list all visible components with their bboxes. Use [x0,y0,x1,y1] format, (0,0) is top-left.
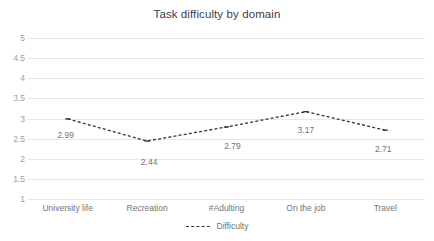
gridline [28,199,425,200]
data-point-label: 2.71 [375,145,392,154]
y-axis-tick-label: 1.5 [3,175,25,184]
gridline [28,38,425,39]
y-axis-tick-label: 3.5 [3,94,25,103]
y-axis-tick-label: 3 [3,114,25,123]
chart-title: Task difficulty by domain [0,8,434,20]
data-point-label: 2.79 [224,142,241,151]
data-point-label: 3.17 [298,125,315,134]
y-axis-tick-label: 2 [3,155,25,164]
y-axis-tick-label: 5 [3,34,25,43]
gridline [28,58,425,59]
x-axis-tick-label: On the job [286,201,325,215]
legend-item-difficulty: Difficulty [217,222,249,231]
gridline [28,179,425,180]
legend-line-icon [186,223,212,230]
plot-area [28,38,425,199]
x-axis-tick-label: Recreation [127,201,168,215]
x-axis: University lifeRecreation#AdultingOn the… [28,201,425,217]
y-axis: 54.543.532.521.51 [0,38,25,199]
gridline [28,119,425,120]
y-axis-tick-label: 4 [3,74,25,83]
data-point-label: 2.44 [141,158,158,167]
chart-legend: Difficulty [0,222,434,231]
gridline [28,159,425,160]
y-axis-tick-label: 1 [3,195,25,204]
data-point-label: 2.99 [57,131,74,140]
x-axis-tick-label: #Adulting [209,201,244,215]
x-axis-tick-label: University life [42,201,93,215]
gridline [28,139,425,140]
gridline [28,98,425,99]
x-axis-tick-label: Travel [374,201,397,215]
gridline [28,78,425,79]
line-chart: Task difficulty by domain 54.543.532.521… [0,0,434,241]
y-axis-tick-label: 2.5 [3,134,25,143]
y-axis-tick-label: 4.5 [3,54,25,63]
